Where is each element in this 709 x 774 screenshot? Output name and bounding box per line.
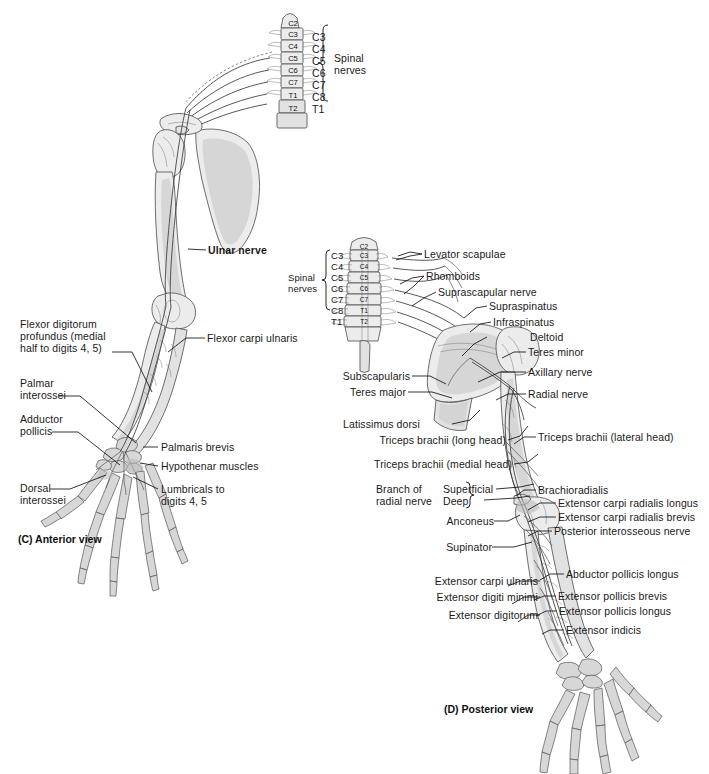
- label-superficial: Superficial: [443, 483, 493, 495]
- panel-d-vertebra-c7: C7: [353, 296, 375, 303]
- panel-d-vertebra-t1: T1: [353, 307, 375, 314]
- panel-c-spinal-nerves-bracket-label-line1: Spinal: [334, 52, 364, 64]
- label-latissimus-dorsi: Latissimus dorsi: [343, 418, 420, 430]
- label-palmaris-brevis: Palmaris brevis: [161, 441, 234, 453]
- label-fdp-line1: Flexor digitorum: [20, 318, 97, 330]
- label-triceps-lateral-head: Triceps brachii (lateral head): [538, 431, 674, 443]
- panel-c-root-c6: C6: [312, 67, 326, 79]
- label-suprascapular-nerve: Suprascapular nerve: [438, 286, 537, 298]
- label-posterior-interosseous-nerve: Posterior interosseous nerve: [554, 525, 690, 537]
- panel-c-root-c8: C8: [312, 91, 326, 103]
- panel-c-vertebra-t2: T2: [281, 104, 305, 113]
- panel-c-vertebra-c3: C3: [283, 30, 303, 39]
- label-anconeus: Anconeus: [424, 515, 494, 527]
- label-triceps-long-head: Triceps brachii (long head): [348, 434, 506, 446]
- panel-d-spinal-nerves-bracket-label-line2: nerves: [288, 283, 317, 295]
- panel-c-root-c7: C7: [312, 79, 326, 91]
- panel-c-root-c5: C5: [312, 55, 326, 67]
- label-supraspinatus: Supraspinatus: [489, 300, 557, 312]
- label-adductor-pollicis-line1: Adductor: [20, 413, 63, 425]
- panel-c-root-c4: C4: [312, 43, 326, 55]
- panel-d-vertebra-c5: C5: [353, 274, 375, 281]
- label-subscapularis: Subscapularis: [328, 370, 410, 382]
- panel-c-vertebra-c6: C6: [283, 66, 303, 75]
- label-palmar-interossei-line2: interossei: [20, 389, 66, 401]
- label-abductor-pollicis-longus: Abductor pollicis longus: [566, 568, 679, 580]
- label-extensor-digitorum: Extensor digitorum: [428, 609, 538, 621]
- label-flexor-carpi-ulnaris: Flexor carpi ulnaris: [207, 332, 298, 344]
- panel-c-vertebra-c7: C7: [283, 78, 303, 87]
- label-rhomboids: Rhomboids: [426, 270, 480, 282]
- panel-d-vertebra-c2: C2: [353, 243, 375, 250]
- label-palmar-interossei-line1: Palmar: [20, 377, 54, 389]
- panel-c-caption: (C) Anterior view: [18, 533, 102, 545]
- label-levator-scapulae: Levator scapulae: [424, 248, 506, 260]
- panel-c-vertebra-t1: T1: [282, 91, 304, 100]
- label-axillary-nerve: Axillary nerve: [528, 366, 592, 378]
- label-triceps-medial-head: Triceps brachii (medial head): [336, 458, 512, 470]
- panel-c-root-c3: C3: [312, 31, 326, 43]
- panel-d-vertebra-c3: C3: [353, 252, 375, 259]
- label-infraspinatus: Infraspinatus: [493, 316, 554, 328]
- figure-page: C3 C4 C5 C6 C7 C8 T1 Spinal nerves C2 C3…: [0, 0, 709, 774]
- panel-c-vertebra-c4: C4: [283, 42, 303, 51]
- label-extensor-indicis: Extensor indicis: [566, 624, 641, 636]
- panel-d-vertebra-c4: C4: [353, 263, 375, 270]
- label-ulnar-nerve: Ulnar nerve: [208, 244, 267, 256]
- panel-c-vertebra-c2: C2: [283, 19, 303, 28]
- label-branch-of-radial-nerve-line2: radial nerve: [376, 495, 432, 507]
- label-deep: Deep: [443, 495, 469, 507]
- label-fdp-line2: profundus (medial: [20, 330, 106, 342]
- label-brachioradialis: Brachioradialis: [538, 484, 608, 496]
- label-extensor-pollicis-brevis: Extensor pollicis brevis: [558, 590, 667, 602]
- label-lumbricals-line1: Lumbricals to: [161, 483, 225, 495]
- label-lumbricals-line2: digits 4, 5: [161, 495, 207, 507]
- label-dorsal-interossei-line1: Dorsal: [20, 482, 51, 494]
- label-extensor-carpi-radialis-longus: Extensor carpi radialis longus: [558, 497, 698, 509]
- panel-c-root-t1: T1: [312, 103, 324, 115]
- panel-d-root-t1: T1: [331, 316, 342, 328]
- label-extensor-carpi-ulnaris: Extensor carpi ulnaris: [410, 575, 538, 587]
- panel-c-vertebra-c5: C5: [283, 54, 303, 63]
- label-extensor-digiti-minimi: Extensor digiti minimi: [406, 591, 538, 603]
- label-supinator: Supinator: [424, 541, 492, 553]
- label-hypothenar-muscles: Hypothenar muscles: [161, 460, 259, 472]
- label-adductor-pollicis-line2: pollicis: [20, 425, 52, 437]
- label-deltoid: Deltoid: [530, 331, 563, 343]
- label-fdp-line3: half to digits 4, 5): [20, 342, 102, 354]
- label-teres-minor: Teres minor: [528, 346, 584, 358]
- panel-d-vertebra-t2: T2: [353, 318, 375, 325]
- label-teres-major: Teres major: [328, 386, 406, 398]
- label-branch-of-radial-nerve-line1: Branch of: [376, 483, 422, 495]
- label-extensor-carpi-radialis-brevis: Extensor carpi radialis brevis: [558, 511, 695, 523]
- label-radial-nerve: Radial nerve: [528, 388, 588, 400]
- panel-d-caption: (D) Posterior view: [444, 703, 533, 715]
- panel-c-spinal-nerves-bracket-label-line2: nerves: [334, 64, 366, 76]
- label-extensor-pollicis-longus: Extensor pollicis longus: [559, 605, 671, 617]
- label-dorsal-interossei-line2: interossei: [20, 494, 66, 506]
- panel-d-vertebra-c6: C6: [353, 285, 375, 292]
